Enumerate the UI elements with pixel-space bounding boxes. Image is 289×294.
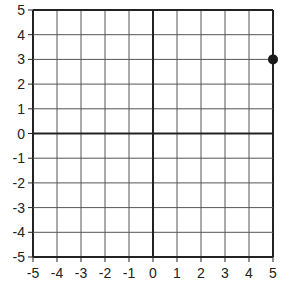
x-tick-label: -1 xyxy=(123,265,136,281)
y-tick-label: 0 xyxy=(17,126,25,142)
x-tick-label: 1 xyxy=(173,265,181,281)
y-tick-label: -4 xyxy=(13,224,26,240)
x-tick-label: 5 xyxy=(269,265,277,281)
y-tick-label: -3 xyxy=(13,200,26,216)
y-tick-label: 1 xyxy=(17,101,25,117)
y-tick-label: 2 xyxy=(17,76,25,92)
x-axis-tick-labels: -5-4-3-2-1012345 xyxy=(27,257,277,281)
x-tick-label: 4 xyxy=(245,265,253,281)
y-tick-label: 5 xyxy=(17,2,25,18)
data-points xyxy=(268,54,278,64)
x-tick-label: -2 xyxy=(99,265,112,281)
y-tick-label: 3 xyxy=(17,51,25,67)
x-tick-label: -3 xyxy=(75,265,88,281)
coordinate-plane: 543210-1-2-3-4-5 -5-4-3-2-1012345 xyxy=(0,0,289,294)
x-tick-label: 0 xyxy=(149,265,157,281)
x-tick-label: -5 xyxy=(27,265,40,281)
y-axis-tick-labels: 543210-1-2-3-4-5 xyxy=(13,2,33,265)
x-tick-label: 2 xyxy=(197,265,205,281)
y-tick-label: -1 xyxy=(13,150,26,166)
y-tick-label: -5 xyxy=(13,249,26,265)
data-point xyxy=(268,54,278,64)
x-tick-label: -4 xyxy=(51,265,64,281)
y-tick-label: -2 xyxy=(13,175,26,191)
x-tick-label: 3 xyxy=(221,265,229,281)
axes xyxy=(33,10,273,257)
y-tick-label: 4 xyxy=(17,27,25,43)
